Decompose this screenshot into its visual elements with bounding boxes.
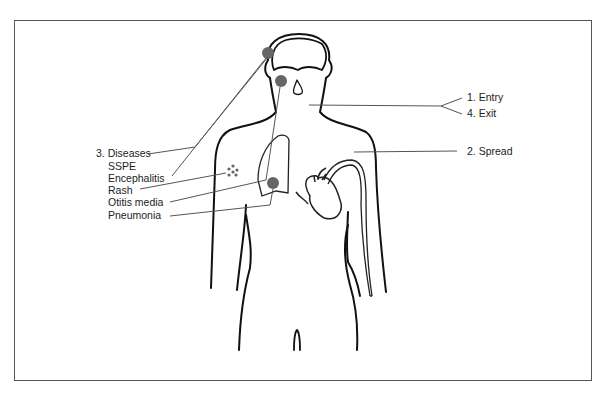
diseases-leader [148,57,268,154]
entry-exit-leader [309,98,462,114]
human-body-figure [0,0,606,398]
encephalitis-leader [172,58,266,176]
label-disease-pneumonia: Pneumonia [108,209,161,221]
label-disease-encephalitis: Encephalitis [108,172,165,184]
left-arm-inner [237,205,246,290]
left-torso [239,215,251,350]
left-shoulder-arm-outline [211,78,276,288]
nose-outline [293,80,302,95]
label-disease-sspe: SSPE [108,160,136,172]
spread-leader [354,151,457,152]
label-exit: 4. Exit [467,107,496,119]
label-entry: 1. Entry [467,91,503,103]
crotch [294,330,300,350]
body-outline [211,34,386,350]
leader-lines [140,57,462,216]
label-disease-otitis-media: Otitis media [108,196,163,208]
lung-infection-dot [267,177,279,189]
cheek-infection-dot [275,75,287,87]
rash-dots [227,164,238,176]
label-diseases-heading: 3. Diseases [96,147,151,159]
brain-outline [272,38,326,70]
otitis-media-leader [170,87,280,202]
label-disease-rash: Rash [108,184,133,196]
heart-outline [296,168,341,219]
pneumonia-leader [170,189,273,216]
label-spread: 2. Spread [467,145,513,157]
